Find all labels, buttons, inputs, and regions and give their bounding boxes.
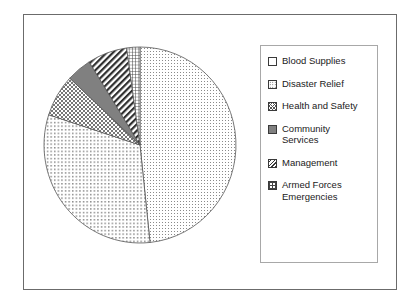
fine-dots-swatch-icon bbox=[268, 57, 277, 66]
chart-legend: Blood Supplies Disaster Relief Health an… bbox=[260, 45, 378, 263]
legend-label: Disaster Relief bbox=[282, 78, 344, 90]
legend-label: Management bbox=[282, 157, 337, 169]
legend-item-blood-supplies[interactable]: Blood Supplies bbox=[268, 55, 371, 67]
pie-slice[interactable] bbox=[140, 47, 236, 242]
solid-gray-swatch-icon bbox=[268, 125, 277, 134]
legend-item-disaster-relief[interactable]: Disaster Relief bbox=[268, 78, 371, 90]
legend-item-management[interactable]: Management bbox=[268, 157, 371, 169]
legend-label: Community Services bbox=[282, 123, 330, 146]
plot-area: Blood Supplies Disaster Relief Health an… bbox=[24, 15, 398, 291]
pie-chart[interactable] bbox=[36, 39, 244, 251]
chart-frame: Blood Supplies Disaster Relief Health an… bbox=[23, 14, 397, 290]
medium-dots-swatch-icon bbox=[268, 80, 277, 89]
legend-item-health-and-safety[interactable]: Health and Safety bbox=[268, 100, 371, 112]
pie-slices bbox=[44, 47, 236, 243]
legend-label: Blood Supplies bbox=[282, 55, 345, 67]
legend-label: Armed Forces Emergencies bbox=[282, 179, 342, 202]
grid-swatch-icon bbox=[268, 181, 277, 190]
legend-item-armed-forces-emergencies[interactable]: Armed Forces Emergencies bbox=[268, 179, 371, 202]
legend-item-community-services[interactable]: Community Services bbox=[268, 123, 371, 146]
diagonal-stripes-swatch-icon bbox=[268, 159, 277, 168]
legend-label: Health and Safety bbox=[282, 100, 358, 112]
crosshatch-swatch-icon bbox=[268, 102, 277, 111]
